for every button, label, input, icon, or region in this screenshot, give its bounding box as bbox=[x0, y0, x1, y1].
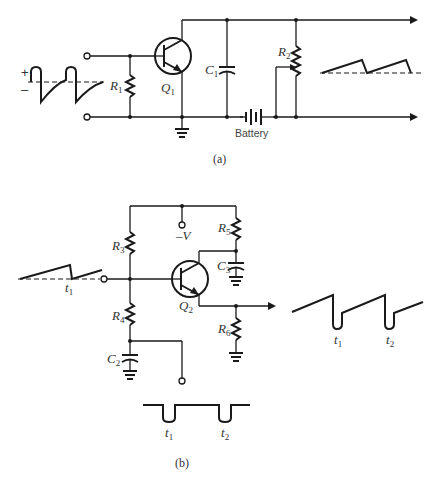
label-t1-pulse: t1 bbox=[165, 425, 173, 442]
label-t2-output: t2 bbox=[386, 332, 394, 349]
label-r5: R5 bbox=[217, 220, 231, 237]
svg-text:+: + bbox=[21, 65, 29, 80]
caption-b: (b) bbox=[175, 456, 189, 470]
caption-a: (a) bbox=[213, 152, 226, 166]
transistor-q2 bbox=[172, 261, 208, 297]
resistor-r3 bbox=[126, 206, 134, 279]
capacitor-c2 bbox=[122, 341, 138, 379]
circuit-b: –V bbox=[18, 204, 423, 470]
resistor-r6 bbox=[229, 306, 243, 361]
input-waveform-b: t1 bbox=[18, 265, 102, 297]
label-r1: R1 bbox=[109, 78, 122, 95]
resistor-r1 bbox=[126, 56, 134, 117]
pulse-output-terminal bbox=[179, 378, 185, 384]
ground-icon-a bbox=[175, 117, 189, 137]
input-terminal-top bbox=[84, 53, 90, 59]
label-supply: –V bbox=[175, 228, 193, 243]
label-t1-input: t1 bbox=[65, 280, 73, 297]
potentiometer-r2 bbox=[274, 18, 300, 119]
label-battery: Battery bbox=[235, 127, 269, 139]
input-terminal-bottom bbox=[84, 114, 90, 120]
label-q2: Q2 bbox=[179, 298, 193, 315]
output-waveform-a bbox=[320, 60, 422, 73]
label-c1: C1 bbox=[205, 62, 218, 79]
output-waveform-b: t1 t2 bbox=[292, 295, 423, 349]
label-c3: C3 bbox=[217, 258, 231, 275]
resistor-r5 bbox=[232, 206, 240, 251]
svg-text:–: – bbox=[21, 82, 29, 97]
transistor-q1 bbox=[155, 38, 191, 74]
capacitor-c3 bbox=[228, 251, 244, 285]
capacitor-c1 bbox=[219, 18, 235, 119]
resistor-r4 bbox=[126, 279, 134, 341]
circuit-diagram: R1 Q1 C1 R2 Battery + – (a) –V bbox=[0, 0, 442, 481]
label-c2: C2 bbox=[107, 351, 120, 368]
label-t1-output: t1 bbox=[334, 332, 342, 349]
label-r4: R4 bbox=[111, 308, 125, 325]
pulse-waveform-b: t1 t2 bbox=[143, 405, 250, 442]
label-r3: R3 bbox=[111, 238, 125, 255]
label-r6: R6 bbox=[217, 321, 231, 338]
label-t2-pulse: t2 bbox=[221, 425, 229, 442]
battery-icon bbox=[240, 109, 276, 125]
input-terminal-b bbox=[101, 276, 107, 282]
label-r2: R2 bbox=[277, 44, 290, 61]
circuit-a: R1 Q1 C1 R2 Battery + – (a) bbox=[21, 16, 422, 166]
input-waveform-a: + – bbox=[21, 65, 104, 102]
label-q1: Q1 bbox=[161, 80, 175, 97]
